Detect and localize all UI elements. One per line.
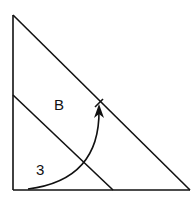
region-label-b: B xyxy=(54,96,64,113)
triangle-diagram: B 3 xyxy=(0,0,194,200)
distance-label-3: 3 xyxy=(36,161,44,178)
